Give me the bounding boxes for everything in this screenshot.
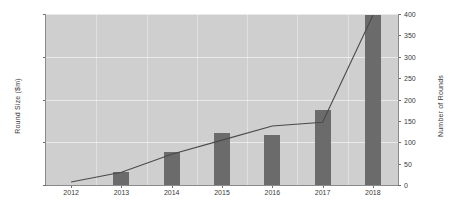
y-right-tick-label: 250 <box>404 75 444 82</box>
y-right-tick-label: 0 <box>404 182 444 189</box>
x-tick-label: 2015 <box>199 189 245 196</box>
y-right-tick-label: 350 <box>404 32 444 39</box>
combo-chart: Round Size ($m) Number of Rounds 0500100… <box>0 0 454 211</box>
line-series <box>46 14 398 185</box>
y-right-tick-label: 400 <box>404 11 444 18</box>
y-right-tick-label: 150 <box>404 117 444 124</box>
y-right-tick-label: 100 <box>404 139 444 146</box>
axis-spine-left <box>45 14 46 185</box>
x-tick-label: 2018 <box>350 189 396 196</box>
x-tick-label: 2017 <box>300 189 346 196</box>
line-path <box>71 15 373 182</box>
x-tick-label: 2016 <box>249 189 295 196</box>
x-tick-label: 2014 <box>149 189 195 196</box>
axis-spine-right <box>398 14 399 185</box>
y-axis-left-title: Round Size ($m) <box>14 51 21 161</box>
y-right-tick-label: 300 <box>404 53 444 60</box>
x-tick-label: 2012 <box>48 189 94 196</box>
axis-spine-bottom <box>46 185 398 186</box>
y-right-tick-mark <box>398 185 401 186</box>
x-tick-label: 2013 <box>98 189 144 196</box>
y-right-tick-label: 200 <box>404 96 444 103</box>
y-right-tick-label: 50 <box>404 160 444 167</box>
